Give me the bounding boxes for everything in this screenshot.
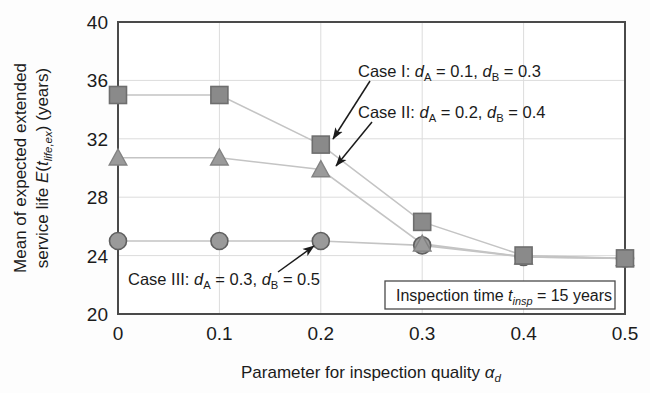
inspection-time-box: Inspection time tinsp = 15 years (385, 281, 615, 309)
x-tick-0: 0 (113, 323, 124, 344)
y-tick-32: 32 (87, 129, 108, 150)
x-axis-tick-labels: 0 0.1 0.2 0.3 0.4 0.5 (113, 323, 639, 344)
y-tick-28: 28 (87, 187, 108, 208)
y-title-E: E (33, 171, 52, 183)
infobox-prefix: Inspection time (396, 287, 508, 304)
chart-figure: 40 36 32 28 24 20 0 0.1 0.2 0.3 0.4 0.5 … (0, 0, 650, 393)
case-2-db-sub: B (496, 112, 503, 124)
case-1-val-a: = 0.1, (432, 62, 483, 80)
case-1-db-sub: B (492, 71, 499, 83)
x-axis-title: Parameter for inspection quality αd (241, 363, 502, 384)
y-tick-20: 20 (87, 304, 108, 325)
chart-canvas: 40 36 32 28 24 20 0 0.1 0.2 0.3 0.4 0.5 … (0, 0, 650, 393)
case-2-prefix: Case II: (358, 103, 419, 121)
case-3-val-a: = 0.3, (211, 270, 262, 288)
y-tick-40: 40 (87, 12, 108, 33)
y-title-prefix: service life (33, 183, 52, 268)
case-2-val-b: = 0.4 (504, 103, 546, 121)
y-axis-title-line2: service life E(tlife,ex) (years) (33, 68, 54, 268)
infobox-value: = 15 years (532, 287, 612, 304)
y-axis-tick-labels: 40 36 32 28 24 20 (87, 12, 109, 325)
case-1-val-b: = 0.3 (499, 62, 541, 80)
case-2-val-a: = 0.2, (436, 103, 487, 121)
infobox-subscript: insp (513, 295, 533, 307)
x-title-prefix: Parameter for inspection quality (241, 363, 485, 382)
x-tick-0-5: 0.5 (612, 323, 638, 344)
y-tick-24: 24 (87, 246, 109, 267)
case-3-prefix: Case III: (128, 270, 194, 288)
case-1-prefix: Case I: (358, 62, 415, 80)
annotation-case-3: Case III: dA = 0.3, dB = 0.5 (128, 270, 320, 291)
x-tick-0-3: 0.3 (409, 323, 435, 344)
x-tick-0-2: 0.2 (308, 323, 334, 344)
y-axis-title: Mean of expected extended service life E… (11, 63, 54, 273)
case-3-db-sub: B (271, 279, 278, 291)
y-tick-36: 36 (87, 70, 108, 91)
y-title-units: (years) (33, 68, 52, 126)
x-tick-0-1: 0.1 (206, 323, 232, 344)
x-tick-0-4: 0.4 (510, 323, 537, 344)
annotation-case-1: Case I: dA = 0.1, dB = 0.3 (358, 62, 541, 83)
y-axis-title-line1: Mean of expected extended (11, 63, 30, 273)
case-3-val-b: = 0.5 (278, 270, 320, 288)
annotation-case-2: Case II: dA = 0.2, dB = 0.4 (358, 103, 545, 124)
x-title-subscript: d (495, 372, 502, 384)
y-title-subscript: life,ex (42, 130, 54, 161)
